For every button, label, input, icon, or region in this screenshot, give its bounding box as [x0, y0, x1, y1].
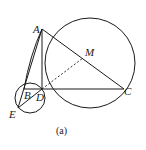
- geometry-diagram: A M B D C E (a): [0, 0, 146, 150]
- large-circle: [45, 18, 135, 108]
- segment-AC: [42, 29, 124, 89]
- label-E: E: [8, 108, 16, 120]
- label-B: B: [24, 89, 31, 101]
- label-C: C: [124, 85, 132, 97]
- segment-DM-dashed: [42, 58, 83, 89]
- label-M: M: [84, 46, 95, 58]
- label-D: D: [35, 91, 44, 103]
- label-A: A: [32, 23, 40, 35]
- figure-caption: (a): [56, 125, 67, 137]
